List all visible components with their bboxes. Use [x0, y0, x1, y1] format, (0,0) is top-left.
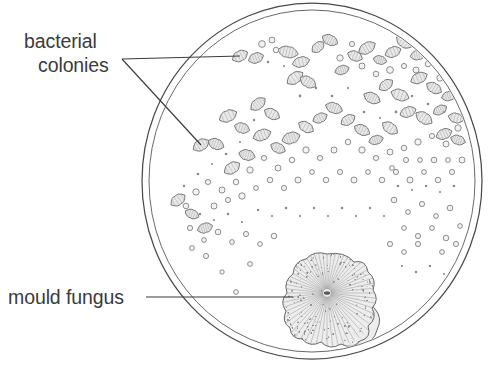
mould-stipple-dot: [347, 248, 348, 249]
colony-dot: [406, 210, 411, 215]
mould-stipple-dot: [310, 249, 311, 250]
colony-outline: [447, 111, 465, 124]
mould-stipple-dot: [375, 306, 376, 307]
mould-stipple-dot: [369, 270, 370, 271]
colony-speck: [299, 215, 301, 217]
mould-stipple-dot: [278, 314, 279, 315]
mould-stipple-dot: [379, 279, 380, 280]
mould-stipple-dot: [293, 268, 294, 269]
mould-stipple-dot: [352, 275, 353, 276]
bacterial-colony: [311, 111, 329, 126]
mould-stipple-dot: [290, 247, 291, 248]
mould-stipple-dot: [281, 274, 282, 275]
mould-stipple-dot: [375, 306, 376, 307]
mould-stipple-dot: [301, 248, 302, 249]
mould-stipple-dot: [273, 306, 274, 307]
mould-stipple-dot: [336, 304, 337, 305]
mould-stipple-dot: [357, 313, 358, 314]
bacterial-colony: [196, 221, 214, 235]
mould-stipple-dot: [314, 245, 315, 246]
mould-stipple-dot: [283, 323, 284, 324]
mould-stipple-dot: [383, 283, 384, 284]
mould-stipple-dot: [274, 283, 275, 284]
mould-stipple-dot: [282, 273, 283, 274]
mould-stipple-dot: [378, 291, 379, 292]
mould-stipple-dot: [378, 292, 379, 293]
mould-stipple-dot: [337, 237, 338, 238]
mould-stipple-dot: [369, 280, 370, 281]
colony-dot: [193, 189, 199, 195]
mould-stipple-dot: [375, 306, 376, 307]
mould-stipple-dot: [289, 264, 290, 265]
mould-stipple-dot: [280, 285, 281, 286]
colony-dot: [187, 225, 192, 230]
mould-stipple-dot: [342, 347, 343, 348]
mould-stipple-dot: [323, 350, 324, 351]
mould-stipple-dot: [301, 248, 302, 249]
mould-stipple-dot: [319, 322, 320, 323]
colony-dot: [359, 63, 365, 69]
colony-outline: [334, 64, 351, 77]
labels: bacterial colonies mould fungus: [8, 30, 124, 308]
mould-stipple-dot: [304, 266, 305, 267]
mould-stipple-dot: [347, 239, 348, 240]
mould-stipple-dot: [350, 244, 351, 245]
mould-stipple-dot: [293, 268, 294, 269]
mould-stipple-dot: [350, 244, 351, 245]
mould-stipple-dot: [282, 273, 283, 274]
colony-outline: [277, 44, 300, 59]
mould-stipple-dot: [300, 255, 301, 256]
mould-stipple-dot: [312, 294, 313, 295]
mould-stipple-dot: [287, 319, 288, 320]
mould-stipple-dot: [291, 271, 292, 272]
mould-stipple-dot: [315, 244, 316, 245]
mould-stipple-dot: [310, 249, 311, 250]
mould-stipple-dot: [312, 325, 313, 326]
mould-stipple-dot: [286, 328, 287, 329]
colony-speck: [227, 213, 230, 216]
mould-stipple-dot: [293, 268, 294, 269]
mould-stipple-dot: [380, 304, 381, 305]
mould-stipple-dot: [325, 242, 326, 243]
mould-stipple-dot: [354, 257, 355, 258]
mould-stipple-dot: [379, 275, 380, 276]
mould-stipple-dot: [307, 243, 308, 244]
bacterial-colony: [383, 44, 402, 60]
mould-stipple-dot: [373, 314, 374, 315]
mould-stipple-dot: [338, 323, 339, 324]
mould-stipple-dot: [290, 281, 291, 282]
mould-stipple-dot: [354, 274, 355, 275]
mould-stipple-dot: [275, 278, 276, 279]
mould-stipple-dot: [291, 271, 292, 272]
mould-stipple-dot: [274, 314, 275, 315]
mould-stipple-dot: [325, 242, 326, 243]
mould-stipple-dot: [376, 281, 377, 282]
mould-stipple-dot: [376, 281, 377, 282]
bacterial-colony: [206, 136, 226, 152]
mould-stipple-dot: [342, 347, 343, 348]
mould-stipple-dot: [295, 262, 296, 263]
mould-stipple-dot: [376, 281, 377, 282]
mould-stipple-dot: [342, 347, 343, 348]
mould-stipple-dot: [285, 327, 286, 328]
mould-stipple-dot: [274, 314, 275, 315]
bacterial-colony: [424, 79, 444, 96]
mould-stipple-dot: [279, 307, 280, 308]
mould-stipple-dot: [345, 266, 346, 267]
mould-stipple-dot: [307, 243, 308, 244]
mould-stipple-dot: [280, 285, 281, 286]
colony-speck: [283, 65, 285, 67]
mould-stipple-dot: [329, 235, 330, 236]
mould-stipple-dot: [342, 347, 343, 348]
mould-stipple-dot: [325, 242, 326, 243]
mould-stipple-dot: [280, 327, 281, 328]
mould-stipple-dot: [369, 270, 370, 271]
mould-stipple-dot: [367, 266, 368, 267]
mould-stipple-dot: [346, 239, 347, 240]
mould-stipple-dot: [369, 270, 370, 271]
bacterial-colony: [389, 87, 411, 104]
mould-stipple-dot: [289, 320, 290, 321]
mould-stipple-dot: [360, 331, 361, 332]
mould-stipple-dot: [347, 251, 348, 252]
mould-stipple-dot: [328, 337, 329, 338]
